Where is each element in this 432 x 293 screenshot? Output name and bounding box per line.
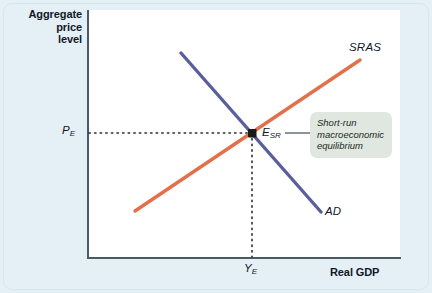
figure-container: Aggregate price level Real GDP PE YE SRA… [0, 0, 432, 293]
equilibrium-label: ESR [262, 126, 281, 140]
annotation-line2: macroeconomic [317, 129, 384, 140]
equilibrium-annotation-callout: Short-run macroeconomic equilibrium [310, 112, 392, 158]
equilibrium-point-marker [248, 129, 257, 138]
ad-curve-label: AD [325, 205, 341, 217]
sras-curve-label: SRAS [349, 41, 381, 53]
annotation-line1: Short-run [317, 117, 357, 128]
annotation-line3: equilibrium [317, 140, 363, 151]
equilibrium-label-sub: SR [270, 131, 281, 140]
equilibrium-label-main: E [262, 126, 270, 138]
